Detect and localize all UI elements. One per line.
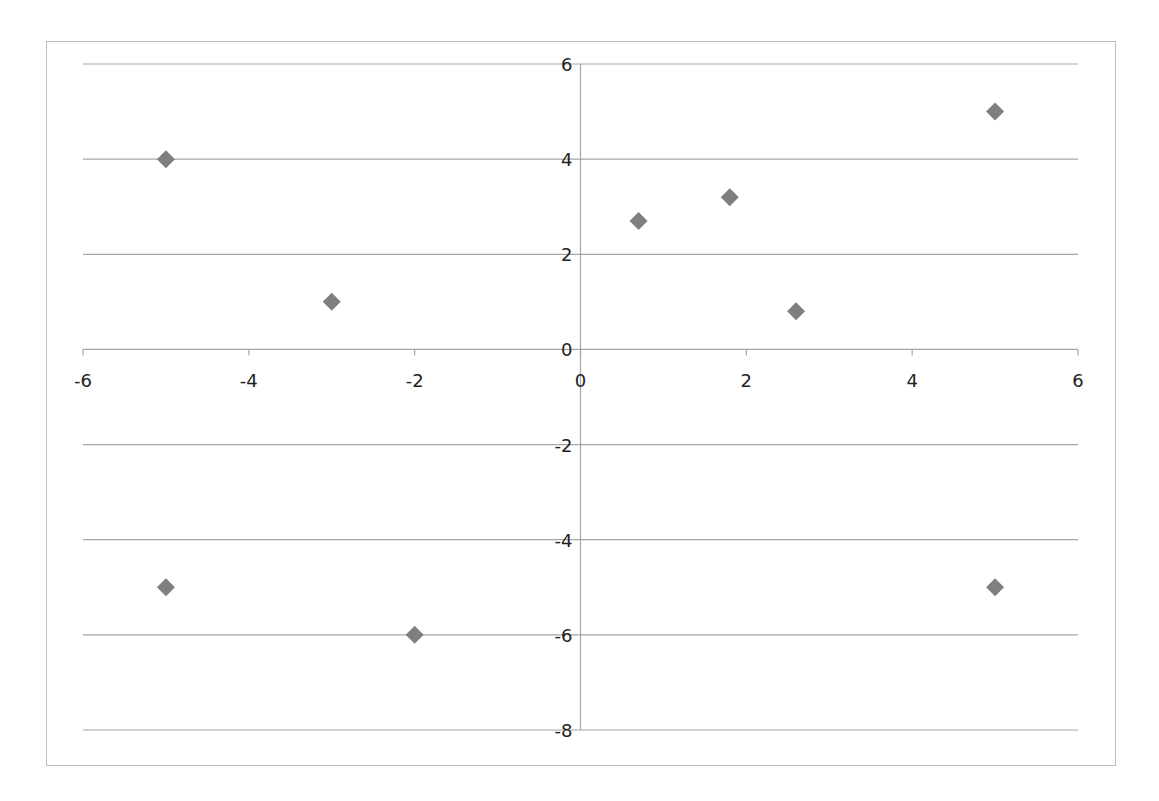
x-tick-label: -2 xyxy=(406,370,424,391)
data-point-diamond xyxy=(630,212,648,230)
y-tick-label: -2 xyxy=(555,435,573,456)
axes: -6-4-20246-8-6-4-20246 xyxy=(74,54,1084,741)
x-tick-label: 0 xyxy=(575,370,586,391)
data-point-diamond xyxy=(157,150,175,168)
scatter-plot: -6-4-20246-8-6-4-20246 xyxy=(47,42,1159,801)
y-tick-label: -4 xyxy=(555,530,573,551)
x-tick-label: 2 xyxy=(741,370,752,391)
data-point-diamond xyxy=(986,103,1004,121)
data-point-diamond xyxy=(406,626,424,644)
y-tick-label: 4 xyxy=(561,149,572,170)
y-tick-label: -8 xyxy=(555,720,573,741)
data-point-diamond xyxy=(157,578,175,596)
x-tick-label: -6 xyxy=(74,370,92,391)
data-point-diamond xyxy=(721,188,739,206)
x-tick-label: 4 xyxy=(906,370,917,391)
x-tick-label: 6 xyxy=(1072,370,1083,391)
y-tick-label: -6 xyxy=(555,625,573,646)
data-point-diamond xyxy=(323,293,341,311)
y-tick-label: 0 xyxy=(561,339,572,360)
x-tick-label: -4 xyxy=(240,370,258,391)
y-tick-label: 2 xyxy=(561,244,572,265)
chart-area: -6-4-20246-8-6-4-20246 xyxy=(46,41,1116,766)
data-point-diamond xyxy=(787,302,805,320)
data-point-diamond xyxy=(986,578,1004,596)
y-tick-label: 6 xyxy=(561,54,572,75)
